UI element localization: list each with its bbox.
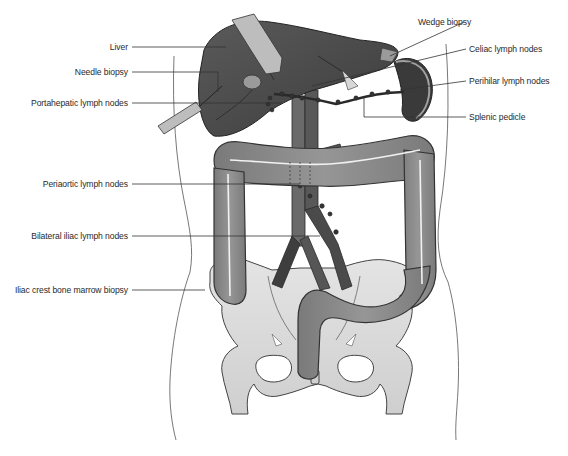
label-bilateral-iliac-lymph-nodes: Bilateral iliac lymph nodes bbox=[31, 231, 128, 241]
label-liver: Liver bbox=[110, 42, 128, 52]
label-iliac-crest-bone-marrow-biopsy: Iliac crest bone marrow biopsy bbox=[15, 285, 128, 295]
label-periaortic-lymph-nodes: Periaortic lymph nodes bbox=[43, 179, 128, 189]
label-splenic-pedicle: Splenic pedicle bbox=[469, 112, 525, 122]
label-perihilar-lymph-nodes: Perihilar lymph nodes bbox=[469, 76, 550, 86]
label-celiac-lymph-nodes: Celiac lymph nodes bbox=[469, 44, 542, 54]
spleen bbox=[394, 58, 432, 121]
label-wedge-biopsy: Wedge biopsy bbox=[418, 17, 471, 27]
label-portahepatic-lymph-nodes: Portahepatic lymph nodes bbox=[31, 98, 128, 108]
great-vessels bbox=[268, 90, 352, 290]
label-needle-biopsy: Needle biopsy bbox=[75, 67, 128, 77]
